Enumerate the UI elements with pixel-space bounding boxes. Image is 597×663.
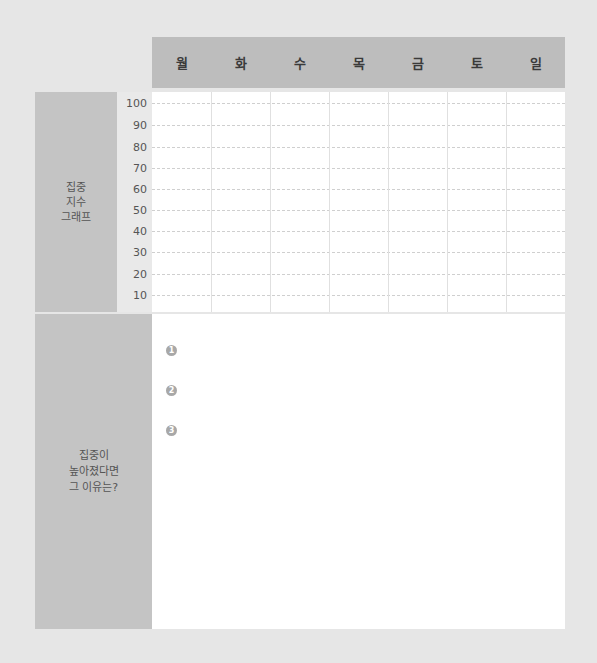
y-axis: 100 90 80 70 60 50 40 30 20 10 [117, 92, 152, 312]
day-tue: 화 [211, 37, 270, 88]
y-tick: 100 [126, 97, 147, 110]
label-line: 높아졌다면 [69, 464, 119, 480]
column-divider [329, 92, 330, 312]
column-divider [270, 92, 271, 312]
gridline [152, 103, 565, 104]
gridline [152, 168, 565, 169]
day-sat: 토 [447, 37, 506, 88]
day-wed: 수 [270, 37, 329, 88]
gridline [152, 252, 565, 253]
focus-graph-grid[interactable] [152, 92, 565, 312]
y-tick: 30 [133, 246, 147, 259]
column-divider [447, 92, 448, 312]
day-fri: 금 [388, 37, 447, 88]
gridline [152, 210, 565, 211]
gridline [152, 231, 565, 232]
label-line: 그래프 [61, 210, 91, 225]
gridline [152, 125, 565, 126]
number-badge-1: 1 [166, 345, 177, 356]
gridline [152, 274, 565, 275]
y-tick: 70 [133, 162, 147, 175]
y-tick: 20 [133, 268, 147, 281]
reason-label: 집중이 높아졌다면 그 이유는? [35, 314, 152, 629]
column-divider [211, 92, 212, 312]
reason-writing-area[interactable]: 1 2 3 [152, 314, 565, 629]
gridline [152, 147, 565, 148]
gridline [152, 189, 565, 190]
weekday-header: 월 화 수 목 금 토 일 [152, 37, 565, 88]
y-tick: 90 [133, 119, 147, 132]
y-tick: 10 [133, 289, 147, 302]
y-tick: 50 [133, 204, 147, 217]
y-tick: 80 [133, 141, 147, 154]
focus-graph-label: 집중 지수 그래프 [35, 92, 117, 312]
gridline [152, 295, 565, 296]
number-badge-2: 2 [166, 385, 177, 396]
column-divider [388, 92, 389, 312]
label-line: 집중 [61, 180, 91, 195]
column-divider [506, 92, 507, 312]
y-tick: 40 [133, 225, 147, 238]
number-badge-3: 3 [166, 425, 177, 436]
label-line: 지수 [61, 195, 91, 210]
day-mon: 월 [152, 37, 211, 88]
label-line: 그 이유는? [69, 480, 119, 496]
day-sun: 일 [506, 37, 565, 88]
label-line: 집중이 [69, 448, 119, 464]
day-thu: 목 [329, 37, 388, 88]
y-tick: 60 [133, 183, 147, 196]
